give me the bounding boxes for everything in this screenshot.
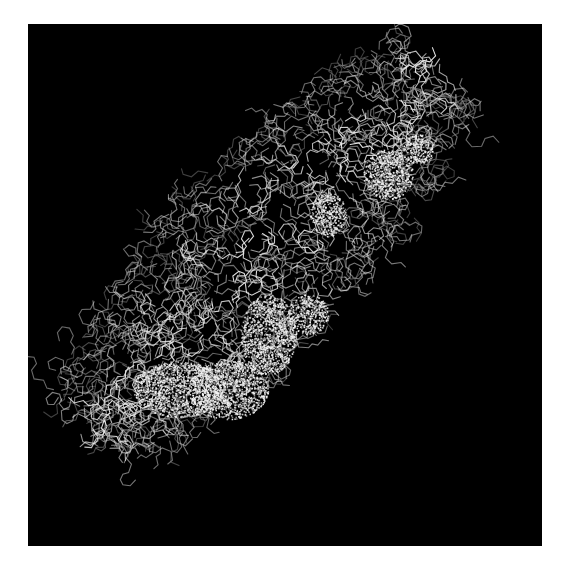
molecule-render — [28, 24, 542, 546]
molecule-viewport — [28, 24, 542, 546]
